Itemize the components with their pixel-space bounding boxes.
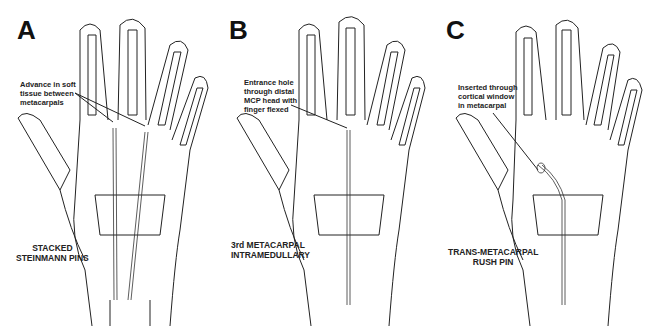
panel-letter: A [17,17,36,43]
caption: 3rd METACARPAL INTRAMEDULLARY [231,240,310,260]
panel-letter: C [446,17,465,43]
caption: STACKED STEINMANN PINS [16,243,89,263]
callout-text: Advance in soft tissue between metacarpa… [20,80,76,107]
hand-illustration-b [219,0,438,326]
callout-line: Inserted through [458,83,518,92]
callout-line: Entrance hole [244,78,297,87]
callout-line: metacarpals [20,98,76,107]
panel-a: A Advance in soft tissue between metacar… [0,0,219,326]
caption-line: 3rd METACARPAL [231,240,310,250]
callout-line: MCP head with [244,96,297,105]
caption: TRANS-METACARPAL RUSH PIN [448,247,538,267]
caption-line: INTRAMEDULLARY [231,250,310,260]
caption-line: RUSH PIN [448,257,538,267]
callout-text: Entrance hole through distal MCP head wi… [244,78,297,114]
caption-line: STEINMANN PINS [16,253,89,263]
panel-letter: B [229,17,248,43]
callout-line: through distal [244,87,297,96]
callout-line: Advance in soft [20,80,76,89]
callout-text: Inserted through cortical window in meta… [458,83,518,110]
hand-illustration-c [438,0,657,326]
panel-c: C Inserted through cortical window in me… [438,0,657,326]
caption-line: TRANS-METACARPAL [448,247,538,257]
callout-line: finger flexed [244,105,297,114]
panel-b: B Entrance hole through distal MCP head … [219,0,438,326]
callout-line: cortical window [458,92,518,101]
caption-line: STACKED [16,243,89,253]
callout-line: in metacarpal [458,101,518,110]
hand-illustration-a [0,0,219,326]
callout-line: tissue between [20,89,76,98]
